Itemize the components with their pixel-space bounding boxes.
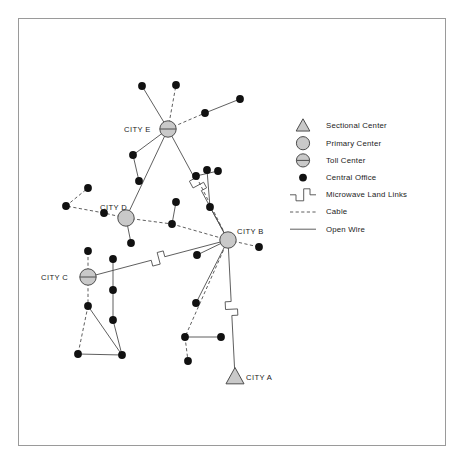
central-office-node xyxy=(138,82,146,90)
legend-item-triangle xyxy=(296,119,310,131)
legend-label-dashed-line: Cable xyxy=(326,207,347,216)
legend-label-zigzag-line: Microwave Land Links xyxy=(326,190,407,199)
central-office-node xyxy=(84,247,92,255)
central-office-node xyxy=(214,167,222,175)
legend-group xyxy=(290,119,316,229)
central-office-node xyxy=(109,316,117,324)
dot-icon xyxy=(299,174,307,182)
central-office-node xyxy=(74,350,82,358)
link-open-wire xyxy=(88,306,122,355)
central-office-node xyxy=(192,172,200,180)
city-label-e: CITY E xyxy=(124,125,151,134)
central-office-node xyxy=(203,166,211,174)
central-office-node xyxy=(127,239,135,247)
central-office-node xyxy=(193,251,201,259)
link-cable xyxy=(66,206,104,213)
link-open-wire xyxy=(126,129,168,218)
city-center-c xyxy=(80,269,96,285)
central-office-node xyxy=(192,299,200,307)
central-office-node xyxy=(118,351,126,359)
zigzag-line-icon xyxy=(290,189,316,201)
central-office-node xyxy=(84,184,92,192)
link-cable xyxy=(172,224,228,240)
link-microwave xyxy=(88,240,228,277)
city-center-d xyxy=(118,210,134,226)
central-office-node xyxy=(62,202,70,210)
city-center-e xyxy=(160,121,176,137)
city-label-b: CITY B xyxy=(237,227,264,236)
link-open-wire xyxy=(196,240,228,303)
central-office-node xyxy=(181,333,189,341)
central-office-node xyxy=(168,220,176,228)
network-graphic xyxy=(0,0,466,468)
link-cable xyxy=(185,240,228,337)
legend-item-zigzag-line xyxy=(290,189,316,201)
legend-label-circle-bar: Toll Center xyxy=(326,156,365,165)
legend-item-circle-bar xyxy=(296,154,309,167)
link-cable xyxy=(78,306,88,354)
central-office-node xyxy=(84,302,92,310)
legend-label-solid-line: Open Wire xyxy=(326,225,365,234)
link-microwave xyxy=(225,240,238,377)
city-label-a: CITY A xyxy=(246,373,272,382)
central-office-node xyxy=(201,109,209,117)
legend-item-dot xyxy=(299,174,307,182)
central-office-node xyxy=(129,151,137,159)
central-office-node xyxy=(184,357,192,365)
primary-center-icon xyxy=(220,232,236,248)
central-office-node xyxy=(172,198,180,206)
link-open-wire xyxy=(205,99,240,113)
legend-label-dot: Central Office xyxy=(326,173,376,182)
circle-icon xyxy=(296,137,309,150)
legend-label-triangle: Sectional Center xyxy=(326,121,387,130)
central-office-node xyxy=(135,177,143,185)
central-office-node xyxy=(217,333,225,341)
primary-center-icon xyxy=(118,210,134,226)
diagram-canvas: CITY ACITY BCITY CCITY DCITY ESectional … xyxy=(0,0,466,468)
city-label-c: CITY C xyxy=(41,273,68,282)
city-label-d: CITY D xyxy=(100,203,127,212)
central-office-node xyxy=(236,95,244,103)
central-office-node xyxy=(109,286,117,294)
link-open-wire xyxy=(113,320,122,355)
central-office-node xyxy=(172,81,180,89)
city-center-a xyxy=(226,368,244,384)
central-office-node xyxy=(255,243,263,251)
sectional-center-icon xyxy=(226,368,244,384)
central-office-node xyxy=(109,255,117,263)
city-center-b xyxy=(220,232,236,248)
link-cable xyxy=(66,188,88,206)
legend-label-circle: Primary Center xyxy=(326,139,381,148)
link-open-wire xyxy=(78,354,122,355)
city-centers-group xyxy=(80,121,244,384)
central-office-node xyxy=(206,203,214,211)
triangle-icon xyxy=(296,119,310,131)
legend-item-circle xyxy=(296,137,309,150)
link-open-wire xyxy=(133,155,139,181)
